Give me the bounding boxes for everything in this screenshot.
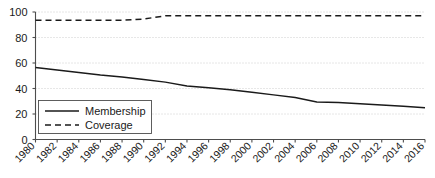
x-tick-label-1990: 1990 <box>120 139 145 164</box>
x-tick-label-1986: 1986 <box>77 139 102 164</box>
chart-canvas: 020406080100 198019821984198619881990199… <box>0 0 435 178</box>
x-tick-label-2016: 2016 <box>401 139 426 164</box>
x-tick-label-1988: 1988 <box>98 139 123 164</box>
y-tick-label-20: 20 <box>15 108 27 120</box>
x-tick-label-2008: 2008 <box>315 139 340 164</box>
x-tick-label-2004: 2004 <box>272 139 297 164</box>
y-tick-label-60: 60 <box>15 57 27 69</box>
x-tick-label-1998: 1998 <box>207 139 232 164</box>
line-chart: 020406080100 198019821984198619881990199… <box>0 0 435 178</box>
x-tick-label-1994: 1994 <box>163 139 188 164</box>
x-tick-label-1992: 1992 <box>142 139 167 164</box>
y-tick-label-80: 80 <box>15 32 27 44</box>
x-tick-label-2014: 2014 <box>380 139 405 164</box>
chart-legend: Membership Coverage <box>39 101 152 134</box>
x-tick-label-1982: 1982 <box>34 139 59 164</box>
legend-label-coverage: Coverage <box>85 119 133 131</box>
x-tick-label-2012: 2012 <box>358 139 383 164</box>
x-tick-label-1984: 1984 <box>55 139 80 164</box>
y-axis-tick-labels: 020406080100 <box>9 6 27 146</box>
data-series-layer <box>36 16 426 108</box>
y-tick-label-100: 100 <box>9 6 27 18</box>
x-axis-tick-labels: 1980198219841986198819901992199419961998… <box>12 139 427 164</box>
series-line-coverage <box>36 16 426 20</box>
x-tick-label-2006: 2006 <box>293 139 318 164</box>
x-tick-label-2002: 2002 <box>250 139 275 164</box>
x-tick-label-2000: 2000 <box>228 139 253 164</box>
x-tick-label-1996: 1996 <box>185 139 210 164</box>
y-tick-label-40: 40 <box>15 83 27 95</box>
legend-label-membership: Membership <box>85 105 146 117</box>
x-tick-label-1980: 1980 <box>12 139 37 164</box>
x-tick-label-2010: 2010 <box>336 139 361 164</box>
